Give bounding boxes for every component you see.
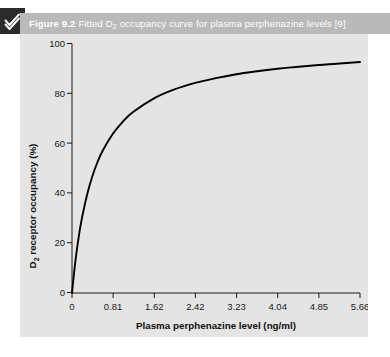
- occupancy-curve: [72, 62, 360, 293]
- y-tick-label: 80: [54, 88, 65, 99]
- x-tick-label: 5.66: [351, 301, 368, 312]
- y-tick-labels: 100 80 60 40 20 0: [49, 38, 65, 298]
- x-tick-label: 1.62: [145, 301, 164, 312]
- figure-caption-bar: Figure 9.2Fitted D2 occupancy curve for …: [20, 13, 390, 34]
- y-axis-title: D2 receptor occupancy (%): [27, 144, 40, 269]
- figure-caption-post: occupancy curve for plasma perphenazine …: [117, 18, 346, 29]
- y-tick-label: 20: [54, 237, 65, 248]
- x-axis-title: Plasma perphenazine level (ng/ml): [136, 320, 296, 331]
- figure-container: Figure 9.2Fitted D2 occupancy curve for …: [0, 0, 390, 357]
- x-tick-label: 3.23: [227, 301, 246, 312]
- y-tick-label: 0: [60, 287, 65, 298]
- x-tick-label: 4.85: [310, 301, 329, 312]
- y-axis-title-pre: D: [27, 261, 38, 268]
- figure-caption-subscript: 2: [113, 23, 117, 30]
- figure-caption-text: Figure 9.2Fitted D2 occupancy curve for …: [29, 19, 346, 29]
- y-axis-title-post: receptor occupancy (%): [27, 144, 38, 258]
- x-tick-label: 0.81: [104, 301, 123, 312]
- chart-svg: D2 receptor occupancy (%) 100 80 60 40 2…: [20, 34, 368, 337]
- x-tick-marks: [72, 293, 360, 298]
- chart-panel: D2 receptor occupancy (%) 100 80 60 40 2…: [20, 34, 368, 337]
- x-tick-label: 2.42: [186, 301, 205, 312]
- y-tick-label: 100: [49, 38, 65, 49]
- figure-number: Figure 9.2: [29, 18, 75, 29]
- y-tick-marks: [67, 44, 72, 293]
- x-tick-labels: 0 0.81 1.62 2.42 3.23 4.04 4.85 5.66: [69, 301, 368, 312]
- y-tick-label: 40: [54, 187, 65, 198]
- x-tick-label: 4.04: [268, 301, 287, 312]
- y-tick-label: 60: [54, 138, 65, 149]
- x-tick-label: 0: [69, 301, 74, 312]
- figure-caption-pre: Fitted D: [78, 18, 112, 29]
